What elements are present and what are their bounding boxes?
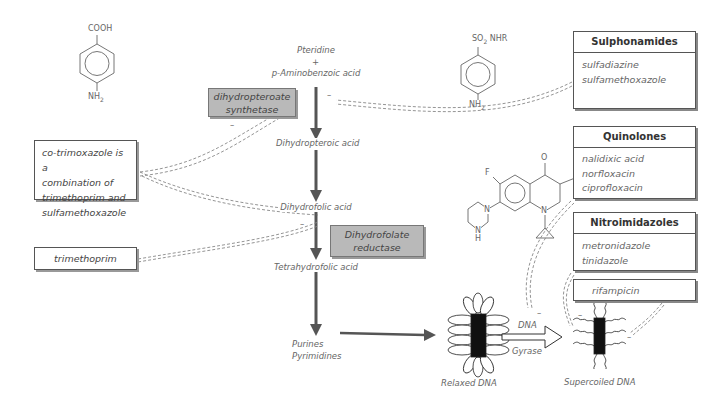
dihydropteroate-synthetase-box: dihydropteroate synthetase: [208, 88, 296, 117]
paba-cooh-label: COOH: [88, 24, 112, 33]
tetrahydrofolic-acid-label: Tetrahydrofolic acid: [274, 262, 358, 272]
paba-label: p-Aminobenzoic acid: [268, 68, 364, 78]
synthetase-line2: synthetase: [226, 103, 279, 116]
sulfa-nhr-text: NHR: [487, 34, 507, 43]
purines-label: Purines: [292, 339, 323, 349]
sulfa-so-text: SO: [472, 34, 483, 43]
drugclass-quinolones: Quinolones nalidixic acid norfloxacin ci…: [573, 126, 696, 199]
sulfonamide-structure: [461, 47, 495, 100]
synthetase-line1: dihydropteroate: [214, 90, 291, 103]
inhibit-sign-nitroimidazole: –: [578, 310, 582, 320]
sulfa-so2nhr-label: SO2 NHR: [472, 34, 507, 45]
inhibit-sign-synthetase: –: [230, 120, 234, 130]
drugclass-sulphonamides: Sulphonamides sulfadiazine sulfamethoxaz…: [573, 31, 696, 109]
drugclass-header: Nitroimidazoles: [574, 213, 695, 234]
quin-f-label: F: [485, 168, 490, 177]
drug-item: tinidazole: [582, 253, 687, 268]
pyrimidines-label: Pyrimidines: [292, 351, 341, 361]
inhibit-sign-rifampicin: –: [627, 332, 631, 342]
quin-n1-label: N: [541, 206, 547, 215]
cotrimoxazole-line2: combination of: [42, 175, 129, 190]
paba-structure: [80, 35, 114, 91]
dihydrofolate-reductase-box: Dihydrofolate reductase: [330, 225, 424, 257]
cotrimoxazole-note: co-trimoxazole is a combination of trime…: [34, 140, 137, 200]
quin-h-label: H: [475, 234, 481, 243]
cotrimoxazole-line3: trimethoprim and: [42, 190, 129, 205]
dihydropteroic-acid-label: Dihydropteroic acid: [276, 138, 356, 148]
dna-gyrase-label-line1: DNA: [518, 320, 537, 330]
quin-o-label: O: [541, 153, 547, 162]
cotrimoxazole-line1: co-trimoxazole is a: [42, 145, 129, 175]
drugclass-header: Quinolones: [574, 127, 695, 148]
sulfa-nh-sub: 2: [481, 104, 485, 111]
reductase-line1: Dihydrofolate: [345, 228, 410, 241]
cotrimoxazole-line4: sulfamethoxazole: [42, 205, 129, 220]
relaxed-dna-label: Relaxed DNA: [441, 378, 497, 388]
drug-item: nalidixic acid: [582, 152, 687, 167]
paba-nh2-label: NH2: [88, 92, 104, 103]
drug-item: metronidazole: [582, 238, 687, 253]
drug-item: rifampicin: [574, 280, 695, 301]
sulfa-nh-text: NH: [469, 100, 481, 109]
trimethoprim-note: trimethoprim: [34, 247, 137, 270]
inhibit-sign-reductase: –: [300, 219, 304, 229]
drug-item: ciprofloxacin: [582, 181, 687, 196]
drugclass-nitroimidazoles: Nitroimidazoles metronidazole tinidazole: [573, 212, 696, 271]
drugclass-rifampicin: rifampicin: [573, 279, 696, 301]
plus-sign: +: [312, 57, 319, 67]
dihydrofolic-acid-label: Dihydrofolic acid: [280, 202, 352, 212]
inhibit-sign-quinolone: –: [537, 308, 541, 318]
paba-nh-sub: 2: [100, 96, 104, 103]
drugclass-header: Sulphonamides: [574, 32, 695, 53]
relaxed-dna-graphic: [448, 293, 509, 377]
pathway-arrows: [310, 87, 436, 341]
paba-nh-text: NH: [88, 92, 100, 101]
drug-item: sulfadiazine: [582, 57, 687, 72]
supercoiled-dna-label: Supercoiled DNA: [564, 377, 636, 387]
dna-gyrase-label-line2: Gyrase: [512, 346, 542, 356]
drug-item: norfloxacin: [582, 167, 687, 182]
inhibit-sign-sulfa: –: [327, 90, 331, 100]
pteridine-label: Pteridine: [290, 45, 342, 55]
reductase-line2: reductase: [353, 241, 400, 254]
sulfa-nh2-label: NH2: [469, 100, 485, 111]
drug-item: sulfamethoxazole: [582, 72, 687, 87]
quin-n2-label: N: [484, 205, 490, 214]
